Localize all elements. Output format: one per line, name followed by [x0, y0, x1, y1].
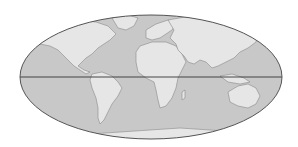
new-zealand: [266, 106, 272, 116]
world-map: [0, 0, 298, 147]
madagascar: [182, 90, 185, 100]
